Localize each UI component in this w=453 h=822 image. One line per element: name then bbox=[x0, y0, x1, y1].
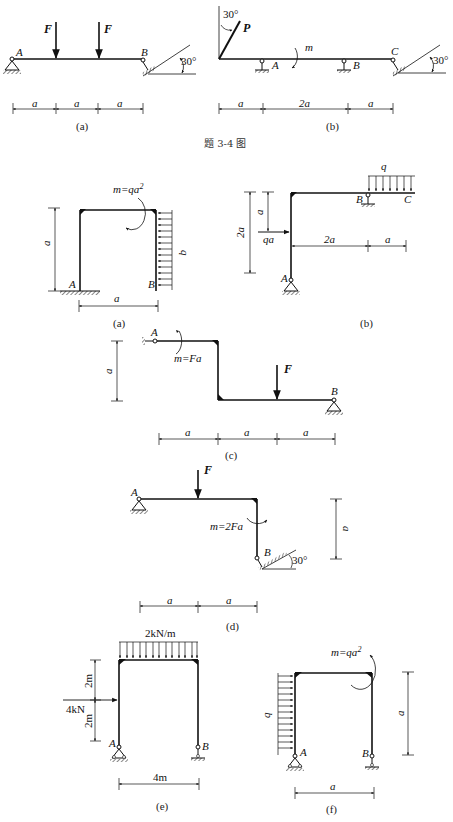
caption: (c) bbox=[225, 449, 238, 462]
roller-support-icon bbox=[255, 59, 269, 73]
dim-label: a bbox=[167, 594, 173, 606]
force-label: P bbox=[243, 21, 251, 35]
point-label-c: C bbox=[404, 193, 412, 205]
dim-label: 2a bbox=[324, 233, 336, 245]
dim-label: a bbox=[102, 368, 114, 374]
dim-label: a bbox=[114, 292, 120, 304]
dimension-lines bbox=[111, 341, 335, 445]
point-label-a: A bbox=[68, 278, 76, 290]
dimension-lines bbox=[295, 672, 414, 799]
dim-label: a bbox=[226, 594, 232, 606]
point-label-b: B bbox=[202, 740, 209, 752]
distributed-load bbox=[278, 673, 293, 755]
moment-arrow-icon bbox=[176, 331, 182, 354]
point-label-b: B bbox=[356, 193, 363, 205]
point-label-a: A bbox=[150, 326, 158, 338]
angle-label: 30° bbox=[181, 55, 196, 67]
point-label-a: A bbox=[271, 59, 279, 71]
dim-label: a bbox=[185, 426, 191, 438]
distributed-load bbox=[158, 210, 172, 290]
figure-b-frame: q B C A qa 2a a 2a a (b) bbox=[234, 160, 415, 330]
dim-label: a bbox=[330, 780, 336, 792]
fixed-wall-icon bbox=[142, 337, 145, 345]
load-label: 2kN/m bbox=[145, 627, 176, 639]
caption: (d) bbox=[226, 620, 239, 633]
point-label-b: B bbox=[148, 278, 155, 290]
caption: (a) bbox=[113, 317, 126, 330]
load-label: q bbox=[381, 160, 387, 172]
roller-support-icon bbox=[337, 59, 351, 73]
load-label: q bbox=[260, 712, 272, 718]
point-label-b: B bbox=[331, 385, 338, 397]
dim-label: a bbox=[40, 240, 52, 246]
dimension-lines bbox=[90, 660, 199, 790]
figure-title: 题 3-4 图 bbox=[204, 138, 246, 149]
point-label-a: A bbox=[130, 486, 138, 498]
point-label-b: B bbox=[264, 546, 271, 558]
figure-a-frame: q m=qa2 A B a a (a) bbox=[40, 182, 191, 330]
caption: (b) bbox=[360, 317, 373, 330]
angle-label: 30° bbox=[292, 554, 307, 566]
angle-label: 30° bbox=[433, 54, 448, 66]
inclined-support-icon bbox=[258, 552, 287, 571]
dim-label: a bbox=[253, 209, 265, 215]
dim-label: 2a bbox=[234, 227, 246, 239]
point-label-b: B bbox=[362, 747, 369, 759]
point-label-a: A bbox=[15, 46, 23, 58]
dim-label: 2m bbox=[82, 674, 94, 689]
figure-canvas: 30° A B F F a a a (a) 30° P bbox=[0, 0, 453, 822]
moment-label: m=Fa bbox=[174, 352, 202, 364]
dim-label: a bbox=[238, 97, 244, 109]
moment-label: m=qa2 bbox=[113, 182, 143, 195]
caption: (a) bbox=[76, 120, 89, 133]
dim-label: a bbox=[394, 710, 406, 716]
moment-label: m=2Fa bbox=[210, 520, 244, 532]
dim-label: 2m bbox=[82, 714, 94, 729]
fixed-support-icon bbox=[60, 291, 100, 295]
point-label-b: B bbox=[353, 59, 360, 71]
load-label: q bbox=[179, 250, 191, 256]
roller-support-icon bbox=[361, 193, 375, 207]
dimension-lines bbox=[48, 208, 158, 312]
moment-arrow-icon bbox=[126, 198, 145, 230]
point-label-c: C bbox=[391, 45, 399, 57]
force-label: F bbox=[103, 22, 112, 36]
figure-f: q m=qa2 A B a a (f) bbox=[260, 645, 414, 816]
figure-e: 2kN/m 4kN A B 2m 2m 4m (e bbox=[63, 627, 209, 813]
force-label: F bbox=[43, 22, 52, 36]
figure-d: A F m=2Fa B 30° a a a (d) bbox=[130, 463, 353, 633]
figure-b-beam: 30° P A B m C 30° bbox=[219, 6, 448, 133]
caption: (e) bbox=[156, 800, 169, 813]
dim-label: a bbox=[341, 526, 353, 532]
dim-label: a bbox=[244, 426, 250, 438]
dim-label: 4m bbox=[153, 771, 168, 783]
caption: (b) bbox=[326, 120, 339, 133]
point-label-b: B bbox=[141, 46, 148, 58]
dim-label: 2a bbox=[299, 97, 311, 109]
point-label-a: A bbox=[299, 746, 307, 758]
force-label: qa bbox=[263, 233, 275, 245]
dim-label: a bbox=[117, 97, 123, 109]
figure-c: A m=Fa F B a a a a (c) bbox=[102, 326, 343, 462]
point-label-a: A bbox=[108, 737, 116, 749]
distributed-load bbox=[119, 642, 198, 658]
angle-label: 30° bbox=[223, 8, 238, 20]
dim-label: a bbox=[32, 97, 38, 109]
dim-label: a bbox=[74, 97, 80, 109]
force-label: F bbox=[283, 362, 292, 376]
dim-label: a bbox=[368, 97, 374, 109]
moment-label: m bbox=[305, 41, 313, 53]
force-label: F bbox=[203, 463, 212, 477]
moment-arrow-icon bbox=[292, 48, 297, 68]
dim-label: a bbox=[385, 233, 391, 245]
dim-label: a bbox=[303, 426, 309, 438]
moment-label: m=qa2 bbox=[331, 645, 361, 658]
point-label-a: A bbox=[280, 272, 288, 284]
force-label: 4kN bbox=[66, 703, 85, 715]
distributed-load bbox=[368, 176, 415, 191]
figure-a-beam: 30° A B F F a a a (a) bbox=[3, 22, 196, 133]
caption: (f) bbox=[326, 803, 337, 816]
